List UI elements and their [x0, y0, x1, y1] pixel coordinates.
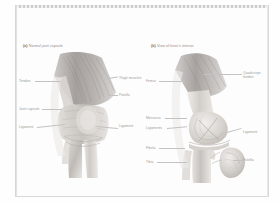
label-panel-b-femur: Femur: [146, 79, 156, 83]
leader-panel-a-patella: [108, 95, 118, 96]
knee-anterior-illustration: [44, 52, 122, 180]
label-panel-b-ligament: Ligament: [243, 130, 257, 134]
label-panel-a-ligament-right: Ligament: [119, 124, 133, 128]
leader-panel-b-meniscus: [165, 118, 187, 119]
scanned-textbook-page: (a) Normal joint capsule: [0, 0, 280, 202]
label-panel-a-ligament: Ligament: [19, 125, 33, 129]
panel-a-caption-text: Normal joint capsule: [29, 44, 63, 48]
panel-b-caption: (b) View of knee's interior: [151, 44, 194, 48]
label-panel-a-patella: Patella: [119, 93, 130, 97]
label-panel-b-quadriceps-tendon: Quadriceps tendon: [243, 71, 269, 79]
leader-panel-b-quadriceps-tendon: [203, 74, 242, 75]
figure-panel-b: (b) View of knee's interior: [145, 8, 267, 194]
leader-panel-b-fibula: [159, 148, 185, 149]
panel-b-caption-tag: (b): [151, 44, 156, 48]
label-panel-a-tendon: Tendon: [19, 79, 30, 83]
label-panel-b-patella: Patella: [243, 158, 254, 162]
label-panel-a-thigh-muscles: Thigh muscles: [119, 76, 145, 80]
leader-panel-b-patella: [233, 160, 242, 161]
page-border-right-edge: [267, 5, 269, 197]
leader-panel-a-tendon: [35, 81, 61, 82]
label-panel-b-ligaments: Ligaments: [146, 126, 162, 130]
label-panel-b-meniscus: Meniscus: [146, 116, 161, 120]
panel-b-caption-text: View of knee's interior: [157, 44, 194, 48]
panel-a-caption: (a) Normal joint capsule: [23, 44, 63, 48]
label-panel-b-fibula: Fibula: [146, 146, 156, 150]
label-panel-b-tibia: Tibia: [146, 160, 153, 164]
panel-a-caption-tag: (a): [23, 44, 28, 48]
page-border-left-edge: [15, 5, 17, 197]
figure-panel-a: (a) Normal joint capsule: [18, 8, 143, 194]
leader-panel-b-tibia: [157, 162, 187, 163]
label-panel-a-joint-capsule: Joint capsule: [19, 107, 39, 111]
leader-panel-a-joint-capsule: [42, 109, 62, 110]
leader-panel-b-femur: [159, 81, 185, 82]
